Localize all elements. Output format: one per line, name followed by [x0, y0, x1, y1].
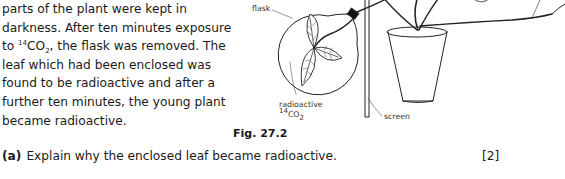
question-label: (a) [2, 149, 21, 163]
passage-line: further ten minutes, the young plant [2, 93, 232, 112]
screen-label: screen [384, 112, 410, 121]
chemical-formula: CO [288, 110, 300, 119]
figure-caption: Fig. 27.2 [233, 127, 287, 140]
passage-fragment: the flask was removed. The [57, 39, 225, 53]
passage-line: became radioactive. [2, 112, 232, 131]
question-a: (a)Explain why the enclosed leaf became … [2, 149, 337, 163]
question-marks: [2] [482, 149, 499, 163]
isotope-mass: 14 [279, 107, 288, 115]
passage-line: found to be radioactive and after a [2, 74, 232, 93]
passage-fragment: to [2, 39, 18, 53]
co2-label: 14CO2 [279, 110, 304, 119]
question-text: Explain why the enclosed leaf became rad… [26, 149, 337, 163]
isotope-mass: 14 [18, 39, 27, 47]
passage-line: parts of the plant were kept in [2, 0, 232, 19]
passage-line: leaf which had been enclosed was [2, 56, 232, 75]
formula-subscript: 2 [300, 114, 304, 122]
passage-text: parts of the plant were kept in darkness… [2, 0, 232, 130]
passage-line: to 14CO2, the flask was removed. The [2, 37, 232, 56]
chemical-formula: CO [27, 39, 45, 53]
flask-label: flask [252, 4, 270, 13]
passage-line: darkness. After ten minutes exposure [2, 19, 232, 38]
